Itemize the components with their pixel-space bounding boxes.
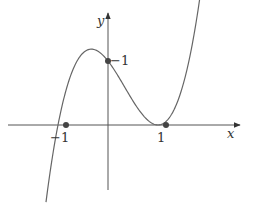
function-plot: y x −1 1 −1	[0, 0, 254, 205]
cubic-curve	[46, 0, 206, 202]
point-x-1	[163, 122, 169, 128]
tick-label-1: 1	[157, 130, 165, 145]
tick-label-neg1: −1	[50, 130, 69, 145]
x-axis-label: x	[227, 126, 235, 141]
y-axis-label: y	[96, 13, 105, 28]
point-x-neg1	[63, 122, 69, 128]
y-intercept-label: −1	[110, 53, 129, 68]
